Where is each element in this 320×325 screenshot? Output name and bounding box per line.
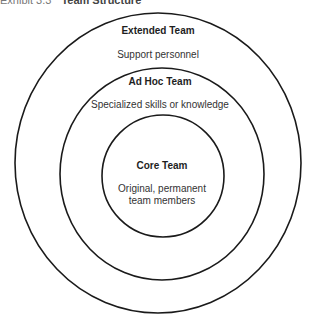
core-team-title: Core Team: [137, 160, 188, 171]
ad-hoc-team-title: Ad Hoc Team: [128, 76, 191, 87]
core-team-description-line2: team members: [129, 195, 196, 207]
ad-hoc-team-description: Specialized skills or knowledge: [91, 99, 229, 111]
core-team-description-line1: Original, permanent: [118, 183, 206, 195]
extended-team-title: Extended Team: [121, 25, 194, 36]
ring-core-team: [102, 115, 224, 237]
extended-team-description: Support personnel: [117, 49, 199, 61]
